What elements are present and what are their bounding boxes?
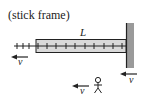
rod-length-label: L (79, 26, 86, 38)
observer-stick-figure-icon (94, 77, 102, 93)
caption: (stick frame) (8, 8, 70, 22)
stick-frame-diagram: (stick frame) L v v (0, 0, 145, 105)
wall-velocity-label: v (129, 74, 134, 85)
wall-block (127, 23, 134, 68)
left-velocity-label: v (18, 56, 23, 67)
observer-velocity-label: v (80, 85, 85, 96)
wall (127, 23, 135, 68)
rod (14, 40, 126, 53)
